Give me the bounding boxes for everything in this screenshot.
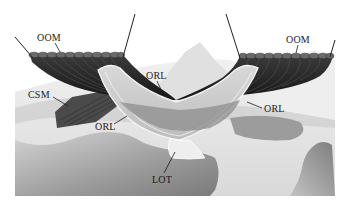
label-orl-left: ORL (95, 122, 116, 132)
label-orl-top: ORL (146, 71, 167, 81)
label-oom-right: OOM (286, 35, 310, 45)
label-csm: CSM (28, 90, 50, 100)
label-oom-left: OOM (37, 33, 61, 43)
label-lot: LOT (152, 175, 172, 185)
anatomy-diagram: OOM OOM ORL ORL CSM ORL LOT (0, 0, 349, 211)
label-orl-right: ORL (264, 104, 285, 114)
